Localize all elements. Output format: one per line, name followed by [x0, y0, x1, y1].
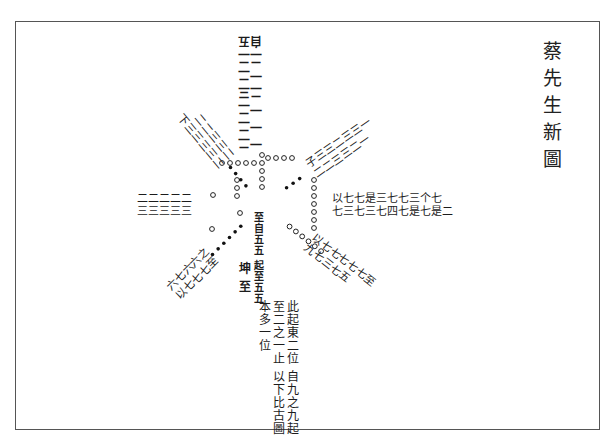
circle-marker [236, 161, 241, 166]
arm-text-char: 二 [238, 119, 250, 133]
arm-text-char: 二 [238, 102, 250, 116]
center-circle-marker [211, 193, 216, 198]
arm-north [260, 153, 265, 190]
center-line: 起至五五 [252, 260, 263, 304]
circle-marker [260, 153, 265, 158]
center-label-text: 坤 [236, 262, 250, 275]
circle-marker [287, 224, 292, 229]
arm-text-char: 三 [238, 85, 250, 99]
circle-marker [293, 229, 298, 234]
circle-marker [235, 194, 240, 199]
dot-marker [239, 178, 243, 182]
center-line: 至自五五 [252, 212, 263, 256]
circle-marker [274, 156, 279, 161]
arm-southwest: 以七七七至六七六六之 [163, 224, 242, 302]
south-arm-text: 此起東二位 自九之九起至二之一止 以下比古圖本多一位 [256, 300, 298, 444]
arm-northwest: 下三三三三二二二三三二 [175, 112, 248, 188]
circle-marker [312, 186, 317, 191]
circle-marker [252, 161, 257, 166]
dot-marker [233, 230, 237, 234]
circle-marker [244, 161, 249, 166]
circle-marker [260, 177, 265, 182]
arm-text-line: 七三七三七四七是七是二 [332, 205, 453, 218]
dot-marker [228, 236, 232, 240]
arm-text-char: 二 [250, 85, 262, 99]
arm-text-line: 以七七是三七七三个七 [332, 192, 442, 205]
arm-text-char: 五 [238, 34, 250, 48]
center-circle-marker [238, 211, 243, 216]
arm-east: 以七七是三七七三个七七三七三七四七是七是二 [312, 178, 453, 231]
circle-marker [312, 202, 317, 207]
dot-marker [216, 247, 220, 251]
circle-marker [312, 178, 317, 183]
arm-text-char: 一 [250, 68, 262, 82]
circle-marker [235, 178, 240, 183]
arm-text-char: 二 [238, 51, 250, 65]
radial-diagram: 子三三二三三一二二三三二一以七七是三七七三个七七三七三七四七是七是二以七七七七七… [0, 0, 616, 444]
arm-text-char: 一 [250, 136, 262, 150]
circle-marker [260, 185, 265, 190]
circle-marker [312, 218, 317, 223]
dot-marker [285, 186, 289, 190]
circle-marker [260, 169, 265, 174]
arm-text-line: 三三三三三 [137, 205, 192, 218]
circle-marker [282, 156, 287, 161]
dot-marker [239, 224, 243, 228]
arm-text-char: 一 [250, 102, 262, 116]
arm-northeast: 子三三二三三一二二三三二一 [285, 115, 374, 189]
dot-marker [234, 172, 238, 176]
arm-text-char: 二 [238, 136, 250, 150]
arm-text-line: 二二二二二 [137, 192, 192, 205]
center-circle-marker [210, 227, 215, 232]
center-column-text: 至自五五 起至五五 [252, 212, 263, 304]
arm-text-char: 二 [238, 68, 250, 82]
south-line: 此起東二位 [284, 300, 298, 365]
arm-text-char: 二 [250, 51, 262, 65]
dot-marker [298, 177, 302, 181]
arm-text-char: 自 [250, 34, 262, 49]
circle-marker [260, 161, 265, 166]
circle-marker [266, 156, 271, 161]
arm-southeast: 以七七七七七至九七三七五 [287, 224, 378, 289]
dot-marker [244, 184, 248, 188]
circle-marker [290, 156, 295, 161]
dot-marker [229, 166, 233, 170]
circle-marker [312, 194, 317, 199]
dot-marker [291, 181, 295, 185]
arm-west: 三三三三三二二二二二 [137, 178, 239, 218]
center-label-text: 至 [236, 280, 250, 293]
circle-marker [300, 234, 305, 239]
dot-marker [222, 241, 226, 245]
circle-marker [312, 210, 317, 215]
circle-marker [312, 226, 317, 231]
arm-text-char: 一 [250, 119, 262, 133]
circle-marker [228, 161, 233, 166]
center-label: 坤 至 [237, 262, 249, 293]
circle-marker [235, 186, 240, 191]
